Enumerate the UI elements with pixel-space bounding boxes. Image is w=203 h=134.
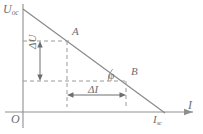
x-axis-label: I	[188, 99, 192, 111]
iv-characteristic-figure: Uoc I O Isc A B φ ΔU ΔI	[0, 0, 203, 134]
y-axis-label: Uoc	[3, 3, 18, 15]
iv-curve-line	[23, 9, 165, 113]
delta-i-arrowhead-right	[120, 92, 127, 97]
angle-phi-label: φ	[108, 70, 114, 81]
delta-u-arrowhead-top	[37, 41, 42, 48]
delta-u-arrowhead-bottom	[37, 75, 42, 82]
figure-canvas	[0, 0, 203, 134]
delta-u-label: ΔU	[27, 35, 38, 49]
delta-i-label: ΔI	[88, 84, 98, 95]
delta-i-arrowhead-left	[67, 92, 74, 97]
isc-label: Isc	[153, 114, 162, 125]
origin-label: O	[11, 113, 20, 125]
point-a-label: A	[72, 26, 79, 37]
point-b-label: B	[131, 66, 138, 77]
